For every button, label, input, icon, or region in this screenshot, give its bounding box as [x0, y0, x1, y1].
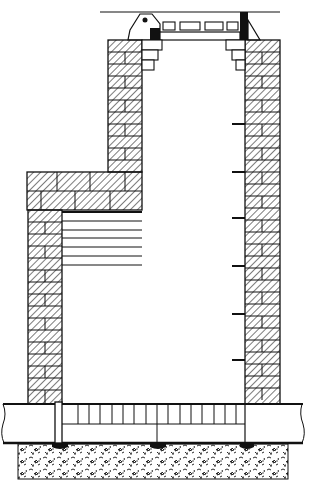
concrete-base [18, 444, 288, 479]
hinge-icon [143, 18, 148, 23]
ladder-rungs [232, 124, 245, 360]
manhole-cover [128, 12, 260, 40]
brick-ledge [27, 172, 142, 210]
brick-wall-right [245, 40, 280, 406]
corbel-steps-right [226, 40, 245, 70]
brick-wall-left-lower [28, 210, 62, 406]
side-ledge-planks [62, 212, 142, 265]
diagram-canvas [0, 0, 313, 484]
manhole-section-diagram [0, 0, 313, 484]
pipe [2, 402, 305, 444]
brick-wall-left-upper [108, 40, 142, 172]
corbel-steps-left [142, 40, 162, 70]
